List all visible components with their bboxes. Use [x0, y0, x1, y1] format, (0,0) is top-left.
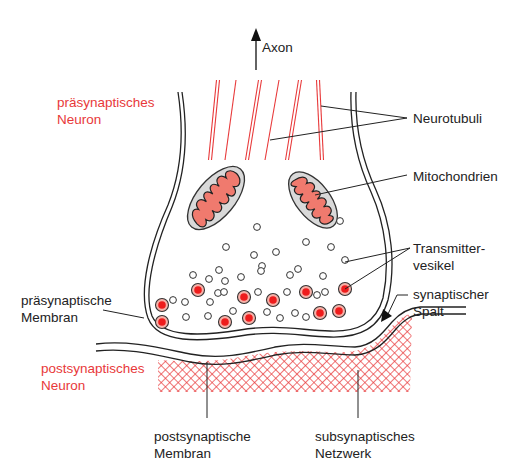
label-neurotubuli: Neurotubuli [413, 110, 482, 127]
empty-vesicle [277, 315, 284, 322]
label-axon: Axon [262, 39, 293, 56]
filled-vesicle-core [335, 307, 343, 315]
empty-vesicle [223, 244, 230, 251]
filled-vesicle-core [194, 286, 202, 294]
empty-vesicle [251, 252, 258, 259]
empty-vesicle [320, 273, 327, 280]
filled-vesicle-core [158, 301, 166, 309]
label-subsynaptic-network-line2: Netzwerk [315, 445, 415, 462]
neurotubulus [265, 80, 279, 160]
neurotubulus [225, 80, 236, 160]
empty-vesicle [183, 314, 190, 321]
label-postsynaptic-neuron: postsynaptisches Neuron [41, 360, 145, 394]
empty-vesicle [182, 299, 189, 306]
empty-vesicle [303, 314, 310, 321]
label-presynaptic-membrane: präsynaptische Membran [21, 292, 112, 326]
label-postsynaptic-membrane: postsynaptische Membran [154, 428, 251, 462]
label-presynaptic-membrane-line2: Membran [21, 309, 112, 326]
leader-vesikel-2 [345, 248, 410, 289]
synapse-illustration [0, 0, 522, 468]
empty-vesicle [258, 268, 265, 275]
label-postsynaptic-membrane-line1: postsynaptische [154, 428, 251, 445]
label-postsynaptic-membrane-line2: Membran [154, 445, 251, 462]
neurotubulus [246, 80, 259, 160]
empty-vesicle [221, 289, 228, 296]
empty-vesicle [273, 249, 280, 256]
empty-vesicle [170, 297, 177, 304]
empty-vesicle [238, 274, 245, 281]
label-synaptic-cleft: synaptischer Spalt [413, 286, 489, 320]
empty-vesicle [216, 267, 223, 274]
filled-vesicle-core [269, 296, 277, 304]
empty-vesicle [205, 313, 212, 320]
label-transmittervesikel: Transmitter- vesikel [413, 240, 485, 274]
filled-vesicle-core [245, 314, 253, 322]
leader-mitochondrien [315, 175, 407, 195]
empty-vesicle [303, 239, 310, 246]
filled-vesicle-core [221, 318, 229, 326]
empty-vesicle [264, 309, 271, 316]
filled-vesicle-core [240, 293, 248, 301]
synaptic-cleft-arrow-icon [381, 309, 392, 322]
neurotubuli [209, 80, 324, 160]
empty-vesicle [295, 266, 302, 273]
label-presynaptic-membrane-line1: präsynaptische [21, 292, 112, 309]
mitochondrion-right [279, 164, 346, 237]
empty-vesicle [222, 278, 229, 285]
mitochondrion-left [177, 157, 255, 240]
label-transmittervesikel-line2: vesikel [413, 257, 485, 274]
label-presynaptic-neuron-line1: präsynaptisches [57, 94, 155, 111]
empty-vesicle [337, 218, 344, 225]
label-presynaptic-neuron: präsynaptisches Neuron [57, 94, 155, 128]
empty-vesicle [342, 257, 349, 264]
filled-vesicle-core [316, 309, 324, 317]
label-transmittervesikel-line1: Transmitter- [413, 240, 485, 257]
label-subsynaptic-network-line1: subsynaptisches [315, 428, 415, 445]
neurotubulus [286, 80, 299, 160]
empty-vesicle [254, 224, 261, 231]
empty-vesicle [206, 276, 213, 283]
empty-vesicle [292, 310, 299, 317]
synapse-diagram: Axon präsynaptisches Neuron Neurotubuli … [0, 0, 522, 468]
label-subsynaptic-network: subsynaptisches Netzwerk [315, 428, 415, 462]
filled-vesicle-core [158, 318, 166, 326]
empty-vesicle [190, 272, 197, 279]
label-postsynaptic-neuron-line1: postsynaptisches [41, 360, 145, 377]
label-postsynaptic-neuron-line2: Neuron [41, 377, 145, 394]
empty-vesicle [287, 272, 294, 279]
transmitter-vesicles [156, 218, 352, 329]
empty-vesicle [230, 308, 237, 315]
empty-vesicle [322, 289, 329, 296]
empty-vesicle [284, 289, 291, 296]
leader-neurotubuli-1 [321, 106, 407, 118]
label-synaptic-cleft-line1: synaptischer [413, 286, 489, 303]
neurotubulus [249, 80, 262, 160]
empty-vesicle [314, 292, 321, 299]
leader-vesikel-1 [345, 248, 410, 262]
filled-vesicle-core [302, 288, 310, 296]
neurotubulus [289, 80, 302, 160]
empty-vesicle [328, 244, 335, 251]
label-presynaptic-neuron-line2: Neuron [57, 111, 155, 128]
label-mitochondrien: Mitochondrien [413, 168, 498, 185]
empty-vesicle [255, 289, 262, 296]
axon-arrow-icon [251, 28, 261, 70]
label-synaptic-cleft-line2: Spalt [413, 303, 489, 320]
empty-vesicle [207, 299, 214, 306]
